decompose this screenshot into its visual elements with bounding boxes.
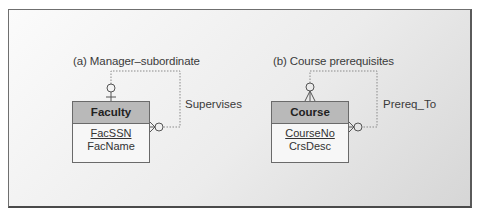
optional-many-icon [349, 122, 362, 132]
optional-many-icon [305, 83, 315, 101]
prereq-loop [310, 71, 377, 127]
supervises-loop [111, 71, 180, 127]
optional-many-icon [150, 122, 163, 132]
optional-one-icon [106, 84, 116, 101]
relationship-lines [0, 0, 483, 220]
